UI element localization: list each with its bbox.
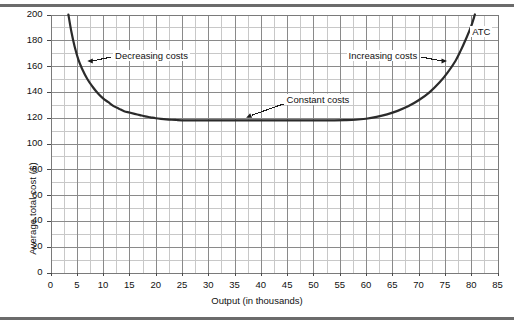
y-tick-label: 20 <box>11 240 43 251</box>
annotation-decreasing-costs: Decreasing costs <box>113 50 190 61</box>
y-tick-label: 60 <box>11 189 43 200</box>
chart-plot-area <box>0 0 514 326</box>
annotation-increasing-costs: Increasing costs <box>347 50 420 61</box>
y-axis-label: Average total cost ($) <box>27 139 38 279</box>
x-tick-label: 85 <box>483 279 513 290</box>
y-tick-label: 140 <box>11 85 43 96</box>
y-tick-label: 80 <box>11 163 43 174</box>
y-tick-label: 0 <box>11 266 43 277</box>
y-tick-label: 200 <box>11 8 43 19</box>
atc-cost-curve-chart <box>0 0 514 326</box>
y-tick-label: 100 <box>11 137 43 148</box>
annotation-atc-label: ATC <box>470 26 492 37</box>
x-axis-label: Output (in thousands) <box>0 295 514 306</box>
annotation-arrowhead <box>246 113 252 118</box>
annotation-arrowhead <box>442 58 448 63</box>
y-tick-label: 40 <box>11 214 43 225</box>
y-tick-label: 120 <box>11 111 43 122</box>
y-tick-label: 160 <box>11 60 43 71</box>
y-tick-label: 180 <box>11 34 43 45</box>
figure-container: Average total cost ($) Output (in thousa… <box>0 0 514 326</box>
annotation-constant-costs: Constant costs <box>285 94 352 105</box>
